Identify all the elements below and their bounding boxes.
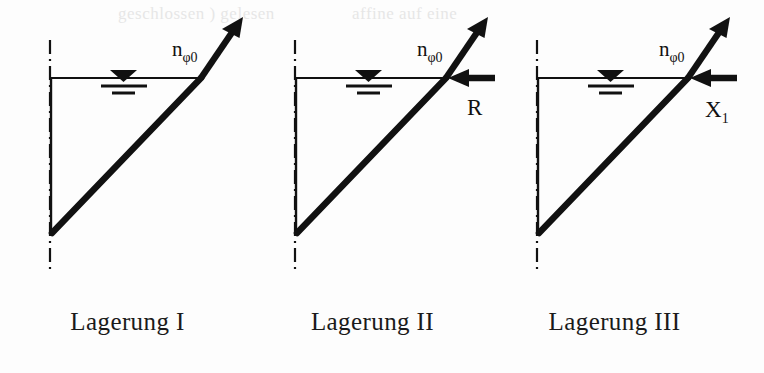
normal-force-label-base: n [659, 37, 670, 61]
normal-force-shaft [201, 31, 233, 78]
water-table-symbol [346, 70, 392, 93]
normal-force-arrow [446, 17, 488, 78]
panel-2-drawing: nφ0 R [245, 0, 500, 300]
water-table-symbol [101, 70, 147, 93]
figure-canvas: geschlossen ) gelesen affine auf eine [0, 0, 764, 373]
water-table-triangle-icon [110, 70, 137, 82]
panel-3-drawing: nφ0 X1 [487, 0, 742, 300]
panel-1-caption: Lagerung I [0, 308, 255, 336]
normal-force-label-base: n [172, 37, 183, 61]
panel-1-drawing: nφ0 [0, 0, 255, 300]
horizontal-force-label-base: X [705, 97, 722, 122]
slip-surface-line [52, 78, 201, 233]
horizontal-force-arrow [690, 69, 737, 87]
normal-force-label: nφ0 [659, 37, 685, 65]
horizontal-force-label: R [467, 95, 483, 120]
diagram-panel-lagerung-3: nφ0 X1 Lagerung III [487, 0, 742, 300]
normal-force-arrow [201, 17, 243, 78]
water-table-symbol [588, 70, 634, 93]
diagram-panel-lagerung-1: nφ0 Lagerung I [0, 0, 255, 300]
normal-force-arrow [688, 17, 730, 78]
horizontal-force-label-base: R [467, 95, 483, 120]
slip-surface-line [539, 78, 688, 233]
horizontal-force-label-subscript: 1 [722, 111, 729, 126]
normal-force-label-subscript: φ0 [670, 50, 685, 65]
panel-3-caption: Lagerung III [487, 308, 742, 336]
diagram-panel-lagerung-2: nφ0 R Lagerung II [245, 0, 500, 300]
normal-force-label: nφ0 [417, 37, 443, 65]
normal-force-label-subscript: φ0 [183, 50, 198, 65]
normal-force-shaft [688, 31, 720, 78]
normal-force-label: nφ0 [172, 37, 198, 65]
slip-surface-line [297, 78, 446, 233]
water-table-triangle-icon [355, 70, 382, 82]
normal-force-shaft [446, 31, 478, 78]
panel-2-caption: Lagerung II [245, 308, 500, 336]
normal-force-label-base: n [417, 37, 428, 61]
water-table-triangle-icon [597, 70, 624, 82]
normal-force-label-subscript: φ0 [428, 50, 443, 65]
horizontal-force-label: X1 [705, 97, 729, 126]
